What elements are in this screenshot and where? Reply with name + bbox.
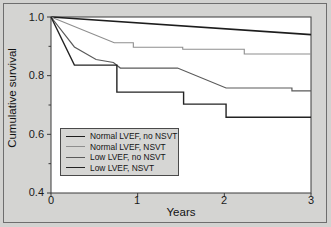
x-tick-label-2: 1 xyxy=(128,194,146,206)
legend-item-low-lvef-nsvt: Low LVEF, NSVT xyxy=(64,163,175,174)
x-tick-label-4: 3 xyxy=(302,194,320,206)
x-axis-label: Years xyxy=(51,206,311,218)
legend-label-low-lvef-nsvt: Low LVEF, NSVT xyxy=(90,163,154,173)
y-tick-label-3: 0.6 xyxy=(14,128,44,140)
legend-swatch-low-lvef-nsvt xyxy=(66,167,85,168)
survival-plot xyxy=(0,0,331,227)
x-tick-label-3: 2 xyxy=(215,194,233,206)
legend: Normal LVEF, no NSVT Normal LVEF, NSVT L… xyxy=(60,128,179,176)
legend-label-normal-lvef-no-nsvt: Normal LVEF, no NSVT xyxy=(90,131,177,141)
y-tick-label-4: 0.4 xyxy=(14,186,44,198)
legend-label-normal-lvef-nsvt: Normal LVEF, NSVT xyxy=(90,142,166,152)
figure-container: 1.0 0.8 0.6 0.4 0 1 2 3 Cumulative survi… xyxy=(0,0,331,227)
legend-swatch-normal-lvef-nsvt xyxy=(66,146,85,147)
legend-item-low-lvef-no-nsvt: Low LVEF, no NSVT xyxy=(64,152,175,163)
legend-swatch-normal-lvef-no-nsvt xyxy=(66,136,85,137)
legend-item-normal-lvef-nsvt: Normal LVEF, NSVT xyxy=(64,142,175,153)
y-tick-label-2: 0.8 xyxy=(14,69,44,81)
legend-swatch-low-lvef-no-nsvt xyxy=(66,157,85,158)
y-tick-label-1: 1.0 xyxy=(14,11,44,23)
legend-label-low-lvef-no-nsvt: Low LVEF, no NSVT xyxy=(90,152,166,162)
y-axis-label: Cumulative survival xyxy=(6,28,18,168)
x-tick-label-1: 0 xyxy=(42,194,60,206)
legend-item-normal-lvef-no-nsvt: Normal LVEF, no NSVT xyxy=(64,131,175,142)
